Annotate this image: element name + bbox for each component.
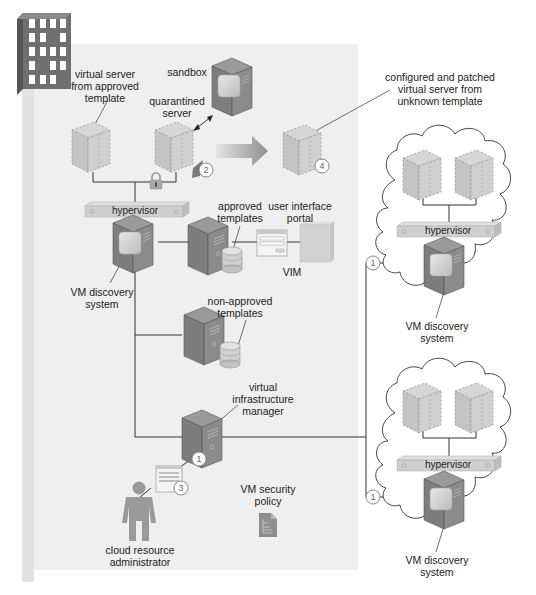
- step-marker-2: 2: [199, 164, 213, 176]
- label-hypervisor-cloud-bottom: hypervisor: [418, 459, 478, 471]
- label-sandbox: sandbox: [162, 66, 212, 78]
- sandbox-server[interactable]: [212, 58, 252, 116]
- label-vm-discovery-cloud-bottom: VM discovery system: [402, 554, 472, 578]
- vim-box[interactable]: [300, 221, 334, 262]
- label-virtual-infrastructure-manager: virtual infrastructure manager: [228, 381, 298, 417]
- vm-discovery-server-main[interactable]: [113, 215, 153, 273]
- label-configured-patched: configured and patched virtual server fr…: [380, 71, 500, 107]
- step-marker-3: 3: [174, 482, 188, 494]
- cloud-top-vserver-2[interactable]: [455, 150, 493, 200]
- vm-discovery-server-cloud-top[interactable]: [424, 237, 464, 295]
- cloud-bottom-vserver-2[interactable]: [455, 383, 493, 433]
- label-approved-templates: approved templates: [215, 200, 265, 224]
- label-vm-discovery-cloud-top: VM discovery system: [402, 320, 472, 344]
- document-icon: [259, 513, 277, 537]
- cloud-bottom-vserver-1[interactable]: [403, 383, 441, 433]
- building-icon: [17, 13, 71, 95]
- label-user-interface-portal: user interface portal: [262, 200, 338, 224]
- label-hypervisor-main: hypervisor: [105, 205, 165, 217]
- step-marker-1-cloud-bottom: 1: [366, 491, 380, 503]
- virtual-server-approved[interactable]: [72, 122, 110, 172]
- step-marker-1-cloud-top: 1: [366, 257, 380, 269]
- cloud-top-vserver-1[interactable]: [403, 150, 441, 200]
- quarantined-server[interactable]: [155, 122, 193, 172]
- label-hypervisor-cloud-top: hypervisor: [418, 225, 478, 237]
- label-virtual-server-approved: virtual server from approved template: [70, 68, 140, 104]
- step-marker-1-vim: 1: [192, 453, 206, 465]
- label-vm-security-policy: VM security policy: [238, 483, 298, 507]
- approved-templates-db-icon: [222, 247, 242, 273]
- label-non-approved-templates: non-approved templates: [205, 295, 275, 319]
- user-interface-portal[interactable]: [257, 230, 287, 256]
- non-approved-templates-db-icon: [220, 342, 240, 368]
- label-cloud-resource-administrator: cloud resource administrator: [100, 544, 180, 568]
- step-marker-4: 4: [315, 160, 329, 172]
- label-vm-discovery-main: VM discovery system: [67, 286, 137, 310]
- label-quarantined-server: quarantined server: [148, 95, 206, 119]
- label-vim: VIM: [272, 266, 312, 278]
- vm-discovery-server-cloud-bottom[interactable]: [424, 471, 464, 529]
